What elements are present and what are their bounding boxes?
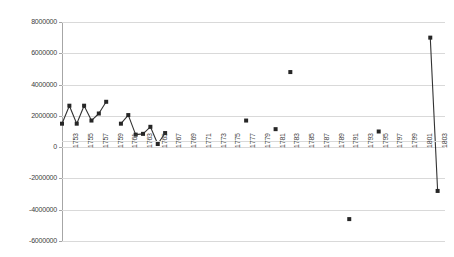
y-axis-tick-label: 6000000 [31, 49, 57, 56]
data-point-marker [244, 119, 248, 123]
data-point-marker [428, 36, 432, 40]
x-axis-tick-label: 1755 [87, 133, 94, 148]
x-axis-tick-label: 1757 [102, 133, 109, 148]
x-axis-tick-label: 1791 [352, 133, 359, 148]
data-point-marker [89, 119, 93, 123]
x-axis-tick-label: 1779 [264, 133, 271, 148]
x-axis-tick-label: 1771 [205, 133, 212, 148]
y-axis-tick-mark [59, 22, 62, 23]
y-axis-tick-label: -2000000 [29, 174, 57, 181]
x-axis-tick-label: 1803 [441, 133, 448, 148]
y-axis-tick-label: 8000000 [31, 18, 57, 25]
y-axis-tick-label: -4000000 [29, 206, 57, 213]
y-axis-tick-label: -6000000 [29, 237, 57, 244]
data-point-marker [148, 125, 152, 129]
x-axis-tick-label: 1763 [146, 133, 153, 148]
data-point-marker [119, 122, 123, 126]
data-point-marker [75, 122, 79, 126]
data-point-marker [141, 132, 145, 136]
x-axis-tick-label: 1785 [308, 133, 315, 148]
x-axis-tick-label: 1777 [249, 133, 256, 148]
data-point-marker [67, 104, 71, 108]
data-point-marker [347, 217, 351, 221]
y-axis-tick-mark [59, 210, 62, 211]
data-point-marker [60, 122, 64, 126]
x-axis-tick-label: 1783 [293, 133, 300, 148]
x-axis-tick-label: 1795 [382, 133, 389, 148]
y-axis-tick-mark [59, 178, 62, 179]
x-axis-tick-label: 1793 [367, 133, 374, 148]
x-axis-tick-label: 1789 [338, 133, 345, 148]
gridline [62, 241, 445, 242]
chart-container: 80000006000000400000020000000-2000000-40… [0, 0, 454, 257]
data-point-marker [97, 112, 101, 116]
x-axis-tick-label: 1765 [161, 133, 168, 148]
data-point-marker [377, 130, 381, 134]
x-axis-tick-label: 1775 [234, 133, 241, 148]
x-axis-tick-label: 1769 [190, 133, 197, 148]
y-axis-labels: 80000006000000400000020000000-2000000-40… [0, 0, 57, 257]
x-axis-tick-label: 1773 [220, 133, 227, 148]
x-axis-labels: 1753175517571759176117631765176717691771… [62, 146, 445, 186]
data-point-marker [436, 189, 440, 193]
series-layer [62, 22, 445, 241]
data-point-marker [104, 100, 108, 104]
x-axis-tick-label: 1801 [426, 133, 433, 148]
data-point-marker [288, 70, 292, 74]
y-axis-tick-mark [59, 241, 62, 242]
x-axis-tick-label: 1767 [175, 133, 182, 148]
data-point-marker [274, 127, 278, 131]
x-axis-tick-label: 1797 [396, 133, 403, 148]
y-axis-tick-mark [59, 53, 62, 54]
data-point-marker [126, 113, 130, 117]
x-axis-tick-label: 1753 [72, 133, 79, 148]
data-point-marker [82, 104, 86, 108]
x-axis-tick-label: 1799 [411, 133, 418, 148]
plot-area [62, 22, 445, 241]
x-axis-tick-label: 1787 [323, 133, 330, 148]
y-axis-tick-mark [59, 147, 62, 148]
y-axis-tick-label: 0 [53, 143, 57, 150]
y-axis-tick-mark [59, 85, 62, 86]
series-line [121, 115, 165, 144]
y-axis-tick-label: 4000000 [31, 81, 57, 88]
x-axis-tick-label: 1781 [279, 133, 286, 148]
x-axis-tick-label: 1759 [117, 133, 124, 148]
x-axis-tick-label: 1761 [131, 133, 138, 148]
y-axis-tick-label: 2000000 [31, 112, 57, 119]
y-axis-tick-mark [59, 116, 62, 117]
